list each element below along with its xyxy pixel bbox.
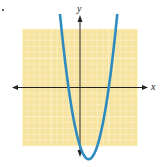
x-axis-left-arrow-icon	[12, 85, 18, 90]
x-axis-label: x	[150, 81, 156, 92]
y-axis-up-arrow-icon	[78, 15, 83, 22]
x-axis-right-arrow-icon	[142, 85, 148, 90]
parabola-graph: x y	[0, 0, 164, 167]
y-axis-label: y	[76, 3, 82, 14]
